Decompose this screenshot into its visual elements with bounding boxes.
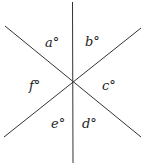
angle-label-c: c°: [102, 78, 116, 93]
angle-label-d: d°: [82, 116, 97, 131]
angle-label-a: a°: [45, 35, 59, 50]
intersecting-lines-diagram: a° b° c° d° e° f°: [0, 0, 142, 163]
angle-label-b: b°: [85, 34, 100, 49]
angle-label-f: f°: [28, 78, 40, 93]
angle-label-e: e°: [51, 116, 65, 131]
